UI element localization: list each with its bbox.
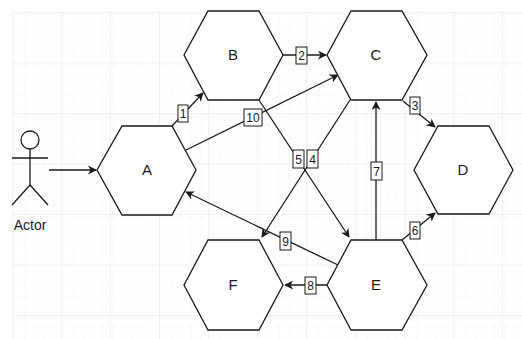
actor-head-icon xyxy=(21,131,39,149)
edge-label-8[interactable]: 8 xyxy=(305,277,316,294)
svg-text:4: 4 xyxy=(309,153,316,167)
svg-text:9: 9 xyxy=(282,235,289,249)
edge-label-9[interactable]: 9 xyxy=(280,232,291,250)
svg-text:10: 10 xyxy=(246,111,260,125)
edge-label-5[interactable]: 5 xyxy=(293,150,304,168)
edge-label-3[interactable]: 3 xyxy=(410,97,420,114)
svg-text:6: 6 xyxy=(412,224,419,238)
node-b-label: B xyxy=(228,46,238,63)
edge-label-7[interactable]: 7 xyxy=(371,162,382,180)
node-c-label: C xyxy=(371,46,382,63)
svg-text:2: 2 xyxy=(298,49,305,63)
svg-text:5: 5 xyxy=(295,153,302,167)
svg-text:8: 8 xyxy=(307,279,314,293)
node-d-label: D xyxy=(458,161,469,178)
edge-label-6[interactable]: 6 xyxy=(410,222,420,239)
node-e-label: E xyxy=(371,276,381,293)
edge-label-2[interactable]: 2 xyxy=(296,47,307,64)
svg-text:1: 1 xyxy=(180,107,187,121)
edge-label-1[interactable]: 1 xyxy=(178,105,188,122)
node-f-label: F xyxy=(228,276,237,293)
svg-text:7: 7 xyxy=(373,165,380,179)
node-a-label: A xyxy=(142,161,152,178)
edge-label-10[interactable]: 10 xyxy=(244,109,262,126)
actor-label: Actor xyxy=(14,217,47,233)
diagram-canvas: A B C D E F 1 2 xyxy=(0,0,522,339)
edge-label-4[interactable]: 4 xyxy=(307,150,318,168)
svg-text:3: 3 xyxy=(412,99,419,113)
